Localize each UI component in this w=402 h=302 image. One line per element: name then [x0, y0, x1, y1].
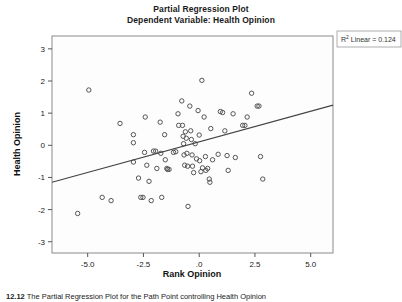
x-tick-label: .0: [196, 260, 203, 269]
figure-caption-text: The Partial Regression Plot for the Path…: [27, 292, 266, 301]
r-squared-annotation: R2 Linear = 0.124: [337, 31, 401, 47]
x-axis-ticks: -5.0-2.5.02.55.0: [81, 253, 317, 269]
y-axis-ticks: -3-2-10123: [38, 45, 52, 247]
y-tick-label: 1: [41, 109, 46, 118]
r-squared-value-text: Linear = 0.124: [349, 36, 396, 43]
x-tick-label: -2.5: [137, 260, 151, 269]
y-tick-label: 2: [41, 77, 46, 86]
y-tick-label: 0: [41, 141, 46, 150]
y-tick-label: 3: [41, 45, 46, 54]
partial-regression-figure: Partial Regression Plot Dependent Variab…: [0, 0, 402, 302]
y-tick-label: -3: [38, 238, 46, 247]
plot-area-wrapper: -5.0-2.5.02.55.0 -3-2-10123 Rank Opinion…: [0, 0, 402, 302]
figure-caption-label: 12.12: [6, 292, 25, 301]
x-tick-label: -5.0: [81, 260, 95, 269]
r-squared-label: R2 Linear = 0.124: [341, 34, 396, 43]
plot-frame: [52, 36, 333, 253]
x-axis-title: Rank Opinion: [163, 269, 222, 279]
x-tick-label: 5.0: [305, 260, 317, 269]
y-tick-label: -2: [38, 206, 46, 215]
figure-caption: 12.12 The Partial Regression Plot for th…: [0, 292, 402, 301]
y-tick-label: -1: [38, 173, 46, 182]
scatter-plot-svg: -5.0-2.5.02.55.0 -3-2-10123 Rank Opinion…: [0, 0, 402, 302]
y-axis-title: Health Opinion: [12, 112, 22, 176]
x-tick-label: 2.5: [249, 260, 261, 269]
